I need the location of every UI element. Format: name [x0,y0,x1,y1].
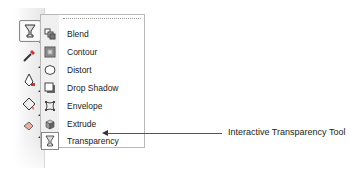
callout-line [107,133,222,134]
callout-label: Interactive Transparency Tool [228,127,345,137]
flyout-item-label: Blend [67,29,89,39]
flyout-item-label: Transparency [67,136,119,146]
outline-tool-button[interactable] [19,70,39,90]
flyout-item-distort[interactable]: Distort [41,61,144,79]
flyout-item-envelope[interactable]: Envelope [41,97,144,115]
flyout-item-blend[interactable]: Blend [41,25,144,43]
envelope-icon [44,100,56,112]
flyout-item-drop-shadow[interactable]: Drop Shadow [41,79,144,97]
goblet-icon [22,23,38,39]
eyedropper-tool-button[interactable] [19,46,39,66]
interactive-fill-icon [21,118,37,134]
transparency-icon [44,135,56,147]
drop-shadow-icon [44,82,56,94]
flyout-grip[interactable] [63,18,141,19]
flyout-item-contour[interactable]: Contour [41,43,144,61]
interactive-transparency-tool-button[interactable] [19,20,41,42]
flyout-item-label: Drop Shadow [67,83,119,93]
pen-nib-icon [21,72,37,88]
flyout-item-transparency[interactable]: Transparency [41,132,144,150]
flyout-item-label: Extrude [67,119,96,129]
eyedropper-icon [21,48,37,64]
paint-bucket-icon [21,96,37,112]
interactive-fill-tool-button[interactable] [19,116,39,136]
flyout-item-label: Contour [67,47,97,57]
contour-icon [44,46,56,58]
distort-icon [44,64,56,76]
interactive-tools-flyout-menu: Blend Contour Distort Drop Shadow Envelo… [40,14,145,148]
flyout-item-label: Distort [67,65,92,75]
flyout-item-extrude[interactable]: Extrude [41,115,144,133]
extrude-icon [44,118,56,130]
flyout-item-label: Envelope [67,101,102,111]
blend-icon [44,28,56,40]
fill-tool-button[interactable] [19,94,39,114]
